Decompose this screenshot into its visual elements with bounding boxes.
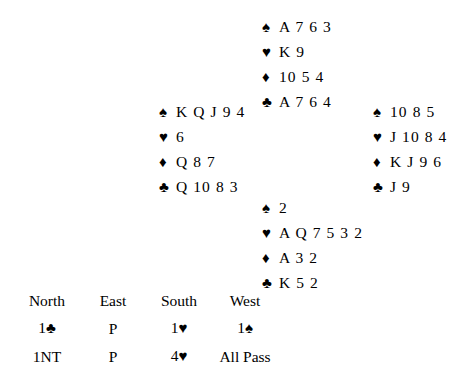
diamond-icon: ♦: [262, 246, 279, 271]
auction-bid-south-1: 1♥: [146, 314, 212, 342]
heart-icon: ♥: [262, 221, 279, 246]
hand-south-spades: 2: [279, 195, 288, 220]
hand-west: ♠ K Q J 9 4 ♥ 6 ♦ Q 8 7 ♣ Q 10 8 3: [159, 99, 245, 199]
spade-icon: ♠: [245, 320, 253, 336]
hand-east-spades-row: ♠ 10 8 5: [373, 99, 447, 124]
hand-east-spades: 10 8 5: [390, 99, 435, 124]
hand-west-hearts-row: ♥ 6: [159, 124, 245, 149]
auction-bid-east-1: P: [80, 314, 146, 342]
auction-body: 1♣P1♥1♠1NTP4♥All Pass: [14, 314, 278, 370]
diamond-icon: ♦: [373, 150, 390, 175]
hand-east-clubs: J 9: [390, 174, 411, 199]
heart-icon: ♥: [262, 40, 279, 65]
bid-level: 1: [237, 319, 245, 336]
bid-text: P: [109, 348, 118, 365]
heart-icon: ♥: [178, 320, 187, 336]
club-icon: ♣: [46, 320, 56, 336]
hand-east-clubs-row: ♣ J 9: [373, 174, 447, 199]
club-icon: ♣: [159, 175, 176, 200]
heart-icon: ♥: [178, 348, 187, 364]
diamond-icon: ♦: [262, 65, 279, 90]
hand-north-hearts: K 9: [279, 39, 305, 64]
auction-bid-west-1: 1♠: [212, 314, 278, 342]
diamond-icon: ♦: [159, 150, 176, 175]
hand-west-spades: K Q J 9 4: [176, 99, 245, 124]
auction-header-east: East: [80, 287, 146, 314]
auction-bid-south-2: 4♥: [146, 342, 212, 370]
hand-east: ♠ 10 8 5 ♥ J 10 8 4 ♦ K J 9 6 ♣ J 9: [373, 99, 447, 199]
spade-icon: ♠: [262, 15, 279, 40]
hand-west-hearts: 6: [176, 124, 185, 149]
heart-icon: ♥: [373, 125, 390, 150]
hand-south-diamonds: A 3 2: [279, 245, 318, 270]
hand-south-spades-row: ♠ 2: [262, 195, 363, 220]
hand-east-hearts-row: ♥ J 10 8 4: [373, 124, 447, 149]
spade-icon: ♠: [159, 100, 176, 125]
hand-north-diamonds: 10 5 4: [279, 64, 324, 89]
hand-west-diamonds-row: ♦ Q 8 7: [159, 149, 245, 174]
bid-text: 1NT: [33, 348, 61, 365]
auction-bid-north-1: 1♣: [14, 314, 80, 342]
auction-header-north: North: [14, 287, 80, 314]
auction-header-south: South: [146, 287, 212, 314]
auction-row: 1♣P1♥1♠: [14, 314, 278, 342]
hand-north-diamonds-row: ♦ 10 5 4: [262, 64, 332, 89]
auction-header-west: West: [212, 287, 278, 314]
hand-north: ♠ A 7 6 3 ♥ K 9 ♦ 10 5 4 ♣ A 7 6 4: [262, 14, 332, 114]
hand-south: ♠ 2 ♥ A Q 7 5 3 2 ♦ A 3 2 ♣ K 5 2: [262, 195, 363, 295]
hand-south-hearts: A Q 7 5 3 2: [279, 220, 363, 245]
hand-west-spades-row: ♠ K Q J 9 4: [159, 99, 245, 124]
auction-bid-west-2: All Pass: [212, 342, 278, 370]
hand-east-hearts: J 10 8 4: [390, 124, 447, 149]
spade-icon: ♠: [373, 100, 390, 125]
bid-text: All Pass: [219, 348, 270, 365]
hand-north-clubs: A 7 6 4: [279, 89, 332, 114]
hand-east-diamonds: K J 9 6: [390, 149, 442, 174]
hand-east-diamonds-row: ♦ K J 9 6: [373, 149, 447, 174]
club-icon: ♣: [373, 175, 390, 200]
hand-south-hearts-row: ♥ A Q 7 5 3 2: [262, 220, 363, 245]
hand-north-spades: A 7 6 3: [279, 14, 332, 39]
spade-icon: ♠: [262, 196, 279, 221]
hand-west-diamonds: Q 8 7: [176, 149, 216, 174]
hand-west-clubs-row: ♣ Q 10 8 3: [159, 174, 245, 199]
hand-north-clubs-row: ♣ A 7 6 4: [262, 89, 332, 114]
bid-text: P: [109, 320, 118, 337]
auction-bid-east-2: P: [80, 342, 146, 370]
hand-south-diamonds-row: ♦ A 3 2: [262, 245, 363, 270]
auction-header-row: North East South West: [14, 287, 278, 314]
auction-bid-north-2: 1NT: [14, 342, 80, 370]
club-icon: ♣: [262, 90, 279, 115]
hand-north-spades-row: ♠ A 7 6 3: [262, 14, 332, 39]
hand-north-hearts-row: ♥ K 9: [262, 39, 332, 64]
bid-level: 1: [38, 319, 46, 336]
hand-west-clubs: Q 10 8 3: [176, 174, 239, 199]
auction-row: 1NTP4♥All Pass: [14, 342, 278, 370]
bridge-deal-diagram: ♠ A 7 6 3 ♥ K 9 ♦ 10 5 4 ♣ A 7 6 4 ♠ K Q…: [0, 0, 465, 374]
hand-south-clubs: K 5 2: [279, 270, 319, 295]
heart-icon: ♥: [159, 125, 176, 150]
auction-table: North East South West 1♣P1♥1♠1NTP4♥All P…: [14, 287, 278, 370]
